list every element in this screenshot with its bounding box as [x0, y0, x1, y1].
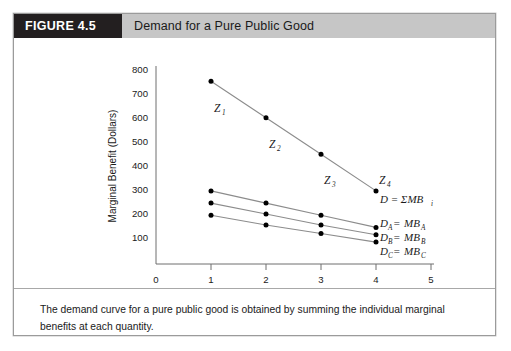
point-label-z4-sub: 4 — [387, 181, 391, 189]
y-tick-500: 500 — [132, 136, 148, 147]
curve-demand-b — [211, 203, 376, 235]
y-axis-title: Marginal Benefit (Dollars) — [107, 110, 118, 223]
y-tick-100: 100 — [132, 232, 148, 243]
x-tick-0: 0 — [153, 274, 158, 285]
x-tick-5: 5 — [428, 274, 433, 285]
figure-number-label: FIGURE 4.5 — [14, 14, 122, 38]
demand-a-point-1 — [209, 188, 214, 193]
demand-c-point-3 — [319, 231, 324, 236]
legend-aggregate-sub: i — [431, 200, 433, 208]
demand-b-point-4 — [374, 232, 379, 237]
curve-demand-a — [211, 191, 376, 228]
x-tick-labels: 0 1 2 3 4 5 — [153, 274, 433, 285]
point-label-z4-base: Z — [379, 174, 386, 186]
point-label-z1-sub: 1 — [222, 109, 226, 117]
y-tick-labels: 800 700 600 500 400 300 200 100 — [132, 64, 148, 243]
legend-b-mb: MB — [403, 231, 420, 243]
point-label-z2-sub: 2 — [277, 145, 281, 153]
aggregate-point-2 — [264, 115, 269, 120]
figure-title: Demand for a Pure Public Good — [122, 14, 495, 38]
legend-aggregate-demand: D = ΣMB i — [379, 193, 433, 208]
legend-demand-a: D A = MB A — [379, 217, 426, 232]
legend-aggregate-base: D = ΣMB — [379, 193, 424, 205]
figure-header: FIGURE 4.5 Demand for a Pure Public Good — [14, 14, 495, 38]
legend-c-mb-sub: C — [421, 252, 426, 260]
y-tick-800: 800 — [132, 64, 148, 75]
point-label-z2-base: Z — [269, 138, 276, 150]
aggregate-point-labels: Z 1 Z 2 Z 3 Z 4 — [214, 102, 391, 189]
legend-b-eq: = — [393, 231, 400, 243]
figure-container: FIGURE 4.5 Demand for a Pure Public Good… — [13, 13, 496, 336]
y-tick-400: 400 — [132, 160, 148, 171]
x-tick-1: 1 — [208, 274, 213, 285]
legend-demand-b: D B = MB B — [379, 231, 426, 246]
x-tick-2: 2 — [263, 274, 268, 285]
y-tick-200: 200 — [132, 208, 148, 219]
point-label-z1-base: Z — [214, 102, 221, 114]
point-label-z3-base: Z — [324, 174, 331, 186]
legend-demand-c: D C = MB C — [379, 245, 426, 260]
legend-c-mb: MB — [403, 245, 420, 257]
legend-c-eq: = — [393, 245, 400, 257]
legend-b-mb-sub: B — [421, 238, 426, 246]
x-tick-marks — [211, 264, 431, 270]
chart-plot-area: 800 700 600 500 400 300 200 100 Marginal… — [14, 38, 495, 288]
figure-caption: The demand curve for a pure public good … — [14, 289, 495, 335]
curve-aggregate-demand — [211, 81, 376, 191]
aggregate-point-1 — [209, 79, 214, 84]
chart-svg: 800 700 600 500 400 300 200 100 Marginal… — [14, 38, 495, 288]
demand-a-point-4 — [374, 225, 379, 230]
demand-b-point-2 — [264, 212, 269, 217]
x-tick-4: 4 — [373, 274, 379, 285]
y-tick-300: 300 — [132, 184, 148, 195]
y-tick-600: 600 — [132, 112, 148, 123]
demand-b-point-1 — [209, 201, 214, 206]
demand-b-point-3 — [319, 223, 324, 228]
demand-c-point-1 — [209, 213, 214, 218]
demand-a-point-2 — [264, 201, 269, 206]
legend-a-eq: = — [393, 217, 400, 229]
aggregate-point-4 — [374, 188, 379, 193]
legend-a-mb-sub: A — [420, 224, 426, 232]
legend-c-d: D — [379, 245, 388, 257]
demand-a-point-3 — [319, 213, 324, 218]
aggregate-point-3 — [319, 152, 324, 157]
legend-a-d: D — [379, 217, 388, 229]
point-label-z3-sub: 3 — [331, 181, 336, 189]
legend-b-d: D — [379, 231, 388, 243]
legend-a-mb: MB — [403, 217, 420, 229]
demand-c-point-4 — [374, 240, 379, 245]
x-tick-3: 3 — [318, 274, 323, 285]
y-tick-700: 700 — [132, 88, 148, 99]
demand-c-point-2 — [264, 223, 269, 228]
